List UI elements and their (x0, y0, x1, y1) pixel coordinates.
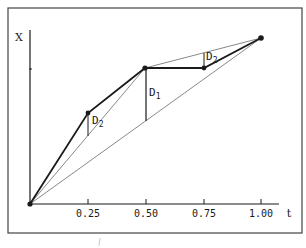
label-d1: D1 (149, 86, 161, 101)
label-d2-left-main: D (92, 114, 99, 127)
x-tick-label-075: 0.75 (192, 208, 216, 219)
point-t100 (258, 35, 264, 41)
x-tick-label-025: 0.25 (76, 208, 100, 219)
label-d2-right-main: D (206, 50, 213, 63)
x-axis-label: t (287, 207, 292, 220)
point-t050 (142, 65, 147, 70)
frame-border (8, 8, 302, 233)
point-t025 (86, 111, 91, 116)
diagram-canvas: 0.25 0.50 0.75 1.00 X t D1 D2 D2 (0, 0, 306, 248)
chord-mid-to-end (145, 38, 261, 68)
x-ticks (88, 199, 261, 204)
x-tick-label-100: 1.00 (249, 208, 273, 219)
stray-mark (99, 238, 100, 246)
label-d2-left: D2 (92, 114, 104, 129)
label-d2-right: D2 (206, 50, 218, 65)
midpoint-displacement-diagram: 0.25 0.50 0.75 1.00 X t D1 D2 D2 (0, 0, 306, 248)
label-d2-right-sub: 2 (213, 56, 218, 65)
point-origin (27, 201, 32, 206)
x-tick-label-050: 0.50 (134, 208, 158, 219)
label-d1-sub: 1 (156, 92, 161, 101)
label-d2-left-sub: 2 (99, 120, 104, 129)
y-axis-label: X (15, 31, 23, 44)
point-t075 (202, 66, 207, 71)
label-d1-main: D (149, 86, 156, 99)
